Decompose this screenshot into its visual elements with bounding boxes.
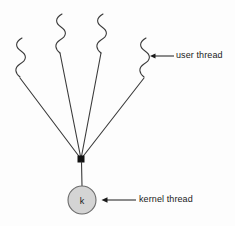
kernel-thread-arrow-head (102, 197, 108, 203)
user-thread-arrow-head (150, 53, 156, 58)
kernel-thread-label: kernel thread (139, 194, 193, 204)
kernel-node-letter: k (80, 196, 85, 206)
squiggle-user-thread-4 (140, 38, 150, 77)
connector-line-1 (20, 78, 81, 159)
thread-connector-lines (20, 53, 144, 159)
kernel-thread-arrow (102, 197, 137, 203)
diagram-canvas: k (0, 0, 235, 226)
thread-junction-node (78, 156, 85, 163)
user-thread-arrow (150, 53, 174, 58)
squiggle-user-thread-2 (56, 14, 66, 53)
connector-line-3 (81, 53, 101, 159)
junction-to-kernel-line (82, 162, 83, 186)
user-thread-squiggles (16, 14, 150, 77)
connector-line-4 (81, 78, 144, 159)
squiggle-user-thread-1 (16, 38, 26, 77)
squiggle-user-thread-3 (97, 14, 107, 53)
user-thread-label: user thread (176, 50, 223, 60)
connector-line-2 (60, 53, 81, 159)
threading-model-diagram: k user thread kernel thread (0, 0, 235, 226)
